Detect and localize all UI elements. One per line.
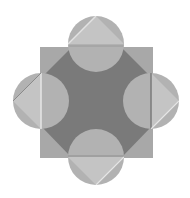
circle-bottom [68, 129, 124, 185]
circle-right [123, 73, 179, 129]
circle-top [68, 16, 124, 72]
geometric-diagram [0, 0, 190, 198]
circle-left [13, 73, 69, 129]
